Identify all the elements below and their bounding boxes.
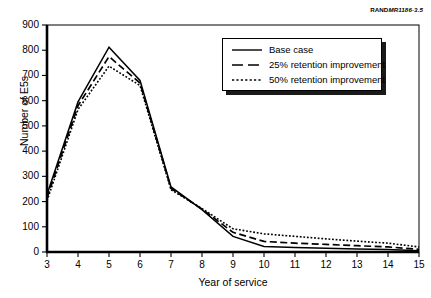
legend-label-25-retention: 25% retention improvement <box>264 60 385 70</box>
legend-swatch-dotted-icon <box>230 74 264 86</box>
figure-container: RANDMR1186-3.5 Number of E5s Year of ser… <box>0 0 431 298</box>
legend-item-25-retention: 25% retention improvement <box>230 58 385 72</box>
legend-label-50-retention: 50% retention improvement <box>264 75 385 85</box>
legend-swatch-dashed-icon <box>230 59 264 71</box>
legend-box: Base case 25% retention improvement 50% … <box>222 38 382 91</box>
legend-swatch-solid-icon <box>230 44 264 56</box>
legend-label-base-case: Base case <box>264 45 313 55</box>
legend-item-base-case: Base case <box>230 43 313 57</box>
legend-item-50-retention: 50% retention improvement <box>230 73 385 87</box>
